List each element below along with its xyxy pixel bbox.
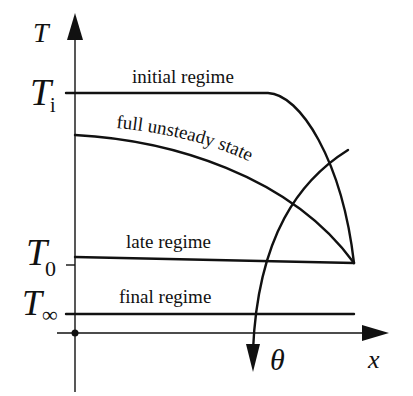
curve-full-unsteady-state: full unsteady state <box>75 111 354 263</box>
x-axis-label: x <box>367 345 380 374</box>
curve-final-regime: final regime <box>66 286 354 314</box>
curve-label: final regime <box>119 286 211 307</box>
theta-arrowhead-icon <box>246 344 260 372</box>
tick-label-subscript: i <box>50 94 56 116</box>
theta-label: θ <box>270 343 285 376</box>
tick-T-i: T i <box>30 71 56 116</box>
tick-T-0: T 0 <box>26 231 75 281</box>
curve-label: late regime <box>126 231 211 252</box>
y-axis-label: T <box>33 17 51 48</box>
tick-T-infinity: T ∞ <box>22 283 58 327</box>
tick-label-subscript: ∞ <box>42 302 58 327</box>
curve-late-regime: late regime <box>75 231 354 263</box>
tick-label-subscript: 0 <box>45 256 56 281</box>
temperature-regime-diagram: T x T i T 0 T ∞ initial regime full unst… <box>0 0 413 396</box>
x-axis-arrowhead-icon <box>362 325 389 341</box>
curve-label: full unsteady state <box>116 111 257 165</box>
curve-label: initial regime <box>132 66 234 87</box>
x-axis: x <box>57 325 389 374</box>
origin-dot-icon <box>72 330 79 337</box>
y-axis-arrowhead-icon <box>67 13 83 40</box>
